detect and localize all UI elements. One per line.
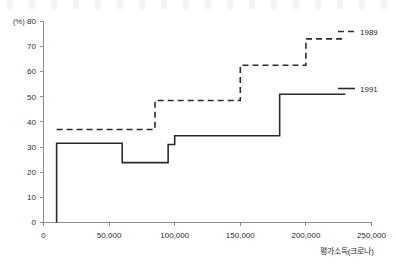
y-tick-label: 0 <box>32 218 37 227</box>
y-tick-label-top: 80 <box>27 17 36 26</box>
legend-label-1989: 1989 <box>360 28 378 37</box>
y-tick-label: 60 <box>27 67 36 76</box>
y-axis-unit-label: (%) <box>13 17 25 26</box>
x-axis-tick-labels: 0 50,000 100,000 150,000 200,000 250,000 <box>41 231 386 240</box>
y-axis-ticks <box>40 21 44 222</box>
step-chart: 0 10 20 30 40 50 60 70 80 (%) 0 50,000 1… <box>0 0 396 267</box>
x-tick-label: 0 <box>41 231 46 240</box>
x-tick-label: 150,000 <box>226 231 255 240</box>
y-tick-label: 20 <box>27 168 36 177</box>
x-tick-label: 50,000 <box>97 231 122 240</box>
x-axis-title: 평가소득(크로나) <box>320 246 375 256</box>
y-tick-label: 40 <box>27 118 36 127</box>
x-tick-label: 200,000 <box>291 231 320 240</box>
y-tick-label: 10 <box>27 193 36 202</box>
legend-label-1991: 1991 <box>360 85 378 94</box>
y-tick-label: 30 <box>27 143 36 152</box>
series-line-1991 <box>57 94 346 222</box>
x-axis-ticks <box>44 223 372 227</box>
x-tick-label: 100,000 <box>160 231 189 240</box>
legend: 1989 1991 <box>338 28 378 94</box>
chart-container: 0 10 20 30 40 50 60 70 80 (%) 0 50,000 1… <box>0 0 396 267</box>
y-tick-label: 70 <box>27 42 36 51</box>
y-axis-tick-labels: 0 10 20 30 40 50 60 70 80 <box>27 17 36 227</box>
x-tick-label: 250,000 <box>357 231 386 240</box>
series-line-1989 <box>57 39 346 130</box>
y-tick-label: 50 <box>27 93 36 102</box>
